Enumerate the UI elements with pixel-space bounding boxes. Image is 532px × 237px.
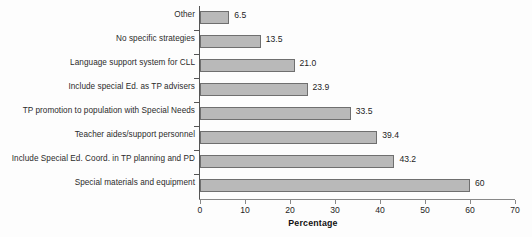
x-axis-tick-label: 70: [510, 205, 520, 215]
y-axis-tick: [194, 54, 199, 55]
x-axis-tick-label: 40: [375, 205, 385, 215]
y-axis-tick: [194, 126, 199, 127]
bar-row: Teacher aides/support personnel39.4: [0, 126, 532, 150]
bar: [200, 59, 295, 72]
x-axis-tick: [200, 200, 201, 204]
category-label: Teacher aides/support personnel: [75, 130, 195, 139]
x-axis-tick: [290, 200, 291, 204]
x-axis-tick: [335, 200, 336, 204]
x-axis-title-label: Percentage: [288, 218, 337, 228]
y-axis-tick: [194, 78, 199, 79]
bar: [200, 35, 261, 48]
x-axis-tick-label: 60: [465, 205, 475, 215]
bar: [200, 179, 470, 192]
category-label: Include Special Ed. Coord. in TP plannin…: [12, 154, 195, 163]
x-axis-tick-label: 20: [285, 205, 295, 215]
x-axis-tick: [425, 200, 426, 204]
bar-value-label: 43.2: [399, 154, 416, 164]
bar-chart: Other6.5No specific strategies13.5Langua…: [0, 0, 532, 237]
plot-area: Other6.5No specific strategies13.5Langua…: [0, 0, 532, 237]
bar-row: TP promotion to population with Special …: [0, 102, 532, 126]
bar-row: Special materials and equipment60: [0, 174, 532, 198]
category-label: TP promotion to population with Special …: [23, 106, 195, 115]
bar: [200, 83, 308, 96]
bar-row: Language support system for CLL21.0: [0, 54, 532, 78]
bar-value-label: 33.5: [356, 106, 373, 116]
y-axis-tick: [194, 102, 199, 103]
bar: [200, 107, 351, 120]
x-axis-title: Percentage: [0, 218, 532, 228]
x-axis-tick: [515, 200, 516, 204]
x-axis-tick-label: 30: [330, 205, 340, 215]
y-axis-tick: [194, 174, 199, 175]
bar: [200, 131, 377, 144]
x-axis-line: [199, 199, 515, 200]
bar-value-label: 21.0: [300, 58, 317, 68]
bar-row: Include special Ed. as TP advisers23.9: [0, 78, 532, 102]
category-label: No specific strategies: [116, 34, 195, 43]
category-label: Special materials and equipment: [75, 178, 195, 187]
bar: [200, 155, 394, 168]
bar-row: Include Special Ed. Coord. in TP plannin…: [0, 150, 532, 174]
x-axis-tick-label: 50: [420, 205, 430, 215]
x-axis-tick: [470, 200, 471, 204]
bar-value-label: 6.5: [234, 10, 246, 20]
bar-row: Other6.5: [0, 6, 532, 30]
x-axis-tick-label: 0: [198, 205, 203, 215]
category-label: Other: [174, 10, 195, 19]
bar-value-label: 39.4: [382, 130, 399, 140]
bar-row: No specific strategies13.5: [0, 30, 532, 54]
bar-value-label: 60: [475, 178, 485, 188]
bar-value-label: 13.5: [266, 34, 283, 44]
y-axis-tick: [194, 150, 199, 151]
x-axis-tick: [245, 200, 246, 204]
x-axis-tick-label: 10: [240, 205, 250, 215]
category-label: Include special Ed. as TP advisers: [68, 82, 195, 91]
bar-value-label: 23.9: [313, 82, 330, 92]
category-label: Language support system for CLL: [70, 58, 195, 67]
x-axis-tick: [380, 200, 381, 204]
bar: [200, 11, 229, 24]
y-axis-tick: [194, 30, 199, 31]
